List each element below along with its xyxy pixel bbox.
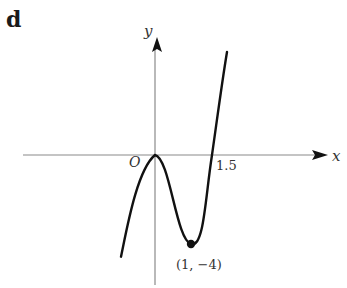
- minimum-point-marker: [187, 240, 195, 248]
- minimum-point-label: (1, −4): [176, 257, 222, 272]
- y-axis-arrow-icon: [152, 37, 162, 52]
- graph: x y O (1, −4) 1.5: [0, 0, 347, 288]
- origin-label: O: [129, 154, 141, 170]
- root-label: 1.5: [216, 158, 237, 173]
- y-axis-label: y: [143, 22, 153, 40]
- x-axis-label: x: [332, 147, 341, 165]
